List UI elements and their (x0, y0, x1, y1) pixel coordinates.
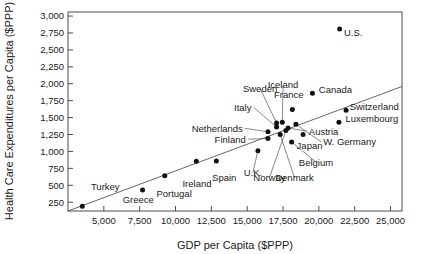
data-point-label: Luxembourg (345, 113, 398, 124)
leader-line (269, 130, 285, 177)
data-point-labels: TurkeyGreecePortugalIrelandSpainU.K.Neth… (91, 27, 399, 205)
x-tick-label: 25,000 (376, 215, 405, 226)
data-point (140, 188, 145, 193)
leader-line (248, 139, 268, 140)
data-point-label: U.S. (344, 27, 362, 38)
data-point-label: Italy (234, 102, 252, 113)
leader-line (245, 128, 268, 132)
y-tick-label: 750 (48, 163, 64, 174)
y-tick-label: 2,000 (40, 78, 64, 89)
data-point (162, 173, 167, 178)
y-tick-label: 250 (48, 197, 64, 208)
x-tick-label: 17,500 (268, 215, 297, 226)
x-tick-label: 7,500 (128, 215, 152, 226)
data-point (301, 132, 306, 137)
scatter-chart-figure: 2505007501,0001,2501,5001,7502,0002,2502… (0, 0, 430, 254)
y-tick-label: 500 (48, 180, 64, 191)
y-axis-tick-marks (68, 16, 73, 202)
data-point (265, 136, 270, 141)
data-point-label: Greece (123, 194, 154, 205)
data-point (80, 204, 85, 209)
chart-canvas: 2505007501,0001,2501,5001,7502,0002,2502… (0, 0, 430, 254)
y-axis-title: Health Care Expenditures per Capita ($PP… (3, 2, 15, 220)
y-axis-tick-labels: 2505007501,0001,2501,5001,7502,0002,2502… (40, 10, 64, 207)
data-point (293, 122, 298, 127)
data-point (310, 91, 315, 96)
data-point-label: Canada (319, 84, 353, 95)
y-tick-label: 1,500 (40, 112, 64, 123)
data-point-label: Denmark (275, 172, 314, 183)
x-tick-label: 22,500 (340, 215, 369, 226)
y-tick-label: 2,250 (40, 61, 64, 72)
x-tick-label: 12,500 (197, 215, 226, 226)
data-point (194, 159, 199, 164)
x-tick-label: 10,000 (161, 215, 190, 226)
data-point (278, 132, 283, 137)
x-axis-title: GDP per Capita ($PPP) (177, 239, 293, 251)
y-tick-label: 3,000 (40, 10, 64, 21)
x-tick-label: 15,000 (233, 215, 262, 226)
x-tick-label: 20,000 (304, 215, 333, 226)
data-point-label: Belgium (299, 157, 333, 168)
x-axis-tick-labels: 5,0007,50010,00012,50015,00017,50020,000… (92, 215, 405, 226)
leader-line (253, 107, 276, 127)
data-point (265, 129, 270, 134)
data-point-label: Austria (309, 126, 339, 137)
data-point (289, 139, 294, 144)
data-point (336, 120, 341, 125)
x-axis-tick-marks (104, 206, 391, 211)
data-point (214, 158, 219, 163)
data-point-label: Turkey (91, 181, 120, 192)
data-point (286, 126, 291, 131)
data-point-label: Portugal (156, 188, 191, 199)
x-tick-label: 5,000 (92, 215, 116, 226)
data-point (274, 121, 279, 126)
data-point-label: France (274, 89, 304, 100)
data-point-label: Switzerland (350, 101, 399, 112)
data-point-label: Finland (215, 134, 246, 145)
data-point-label: Ireland (182, 178, 211, 189)
data-point-label: Spain (212, 172, 236, 183)
data-point (337, 26, 342, 31)
data-point-label: Japan (297, 140, 323, 151)
data-point-label: W. Germany (323, 136, 376, 147)
y-tick-label: 1,750 (40, 95, 64, 106)
y-tick-label: 1,000 (40, 146, 64, 157)
y-tick-label: 2,500 (40, 44, 64, 55)
data-point (255, 148, 260, 153)
y-tick-label: 2,750 (40, 27, 64, 38)
data-point (280, 120, 285, 125)
data-point (290, 107, 295, 112)
y-tick-label: 1,250 (40, 129, 64, 140)
data-point (344, 108, 349, 113)
data-point-label: Netherlands (192, 123, 243, 134)
